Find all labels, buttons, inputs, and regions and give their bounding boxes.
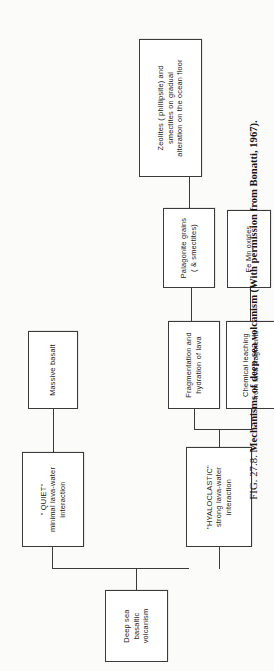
figure-page: Deep sea basaltic volcanism " QUIET" min… xyxy=(0,0,274,671)
edge-quiet-to-massive-basalt xyxy=(53,408,54,452)
node-deep-sea-basaltic-volcanism[interactable]: Deep sea basaltic volcanism xyxy=(105,590,168,662)
node-zeolites-smectites[interactable]: Zeolites ( phillipsite) and smectites on… xyxy=(139,39,202,177)
node-deep-sea-basaltic-volcanism-label: Deep sea basaltic volcanism xyxy=(122,609,151,644)
edge-hyaloclastic-to-fragmentation xyxy=(194,408,195,430)
edge-source-bus xyxy=(52,568,189,569)
node-palagonite-grains[interactable]: Palagonite grains ( & smectites) xyxy=(163,208,215,288)
node-palagonite-label: Palagonite grains ( & smectites) xyxy=(179,218,198,279)
edge-source-to-quiet xyxy=(52,546,53,569)
figure-caption: FIG. 27.8. Mechanisms of deep-sea volcan… xyxy=(236,40,270,580)
flowchart-diagram: Deep sea basaltic volcanism " QUIET" min… xyxy=(0,0,274,671)
edge-fragmentation-to-palagonite xyxy=(191,287,192,321)
figure-caption-label: FIG. 27.8. xyxy=(248,455,259,500)
node-massive-basalt[interactable]: Massive basalt xyxy=(28,331,78,409)
edge-palagonite-to-zeolites xyxy=(189,176,190,208)
node-fragmentation-label: Fragmentation and hydration of lava xyxy=(184,332,203,397)
edge-source-to-hyaloclastic xyxy=(219,546,220,569)
node-quiet-label: " QUIET" minimal lava-water interaction xyxy=(39,467,68,532)
node-zeolites-label: Zeolites ( phillipsite) and smectites on… xyxy=(156,59,185,156)
edge-source-stem xyxy=(136,569,137,590)
node-hyaloclastic-label: "HYALOCLASTIC" strong lava-water interac… xyxy=(205,465,234,529)
node-quiet-minimal-lava-water-interaction[interactable]: " QUIET" minimal lava-water interaction xyxy=(22,452,84,547)
figure-caption-body: Mechanisms of deep-sea volcanism (With p… xyxy=(248,120,259,452)
node-fragmentation-and-hydration-of-lava[interactable]: Fragmentation and hydration of lava xyxy=(168,321,220,409)
node-massive-basalt-label: Massive basalt xyxy=(48,344,58,396)
diagram-rotation-wrapper: Deep sea basaltic volcanism " QUIET" min… xyxy=(0,0,274,671)
edge-hyaloclastic-stem xyxy=(219,430,220,447)
